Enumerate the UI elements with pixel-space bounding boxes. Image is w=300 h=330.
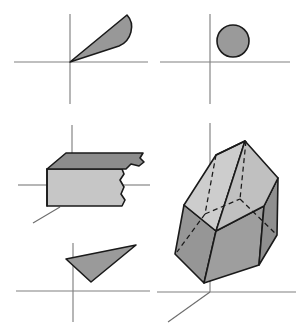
circle-projection — [217, 25, 249, 57]
slab-front-face — [47, 169, 125, 206]
geometry-figure — [0, 0, 300, 330]
figure-root — [0, 0, 300, 330]
